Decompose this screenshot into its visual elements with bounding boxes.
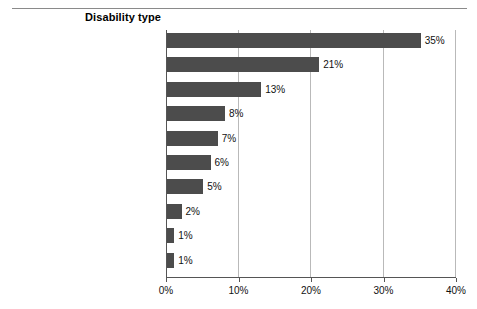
x-axis-tick bbox=[456, 278, 457, 282]
bar bbox=[167, 179, 203, 194]
bar bbox=[167, 33, 421, 48]
bar-value-label: 1% bbox=[178, 228, 192, 243]
bar-value-label: 35% bbox=[425, 33, 445, 48]
x-axis-tick-label: 40% bbox=[446, 285, 466, 296]
bar-value-label: 2% bbox=[186, 204, 200, 219]
bar-value-label: 13% bbox=[265, 82, 285, 97]
bar-value-label: 21% bbox=[323, 57, 343, 72]
x-axis-tick bbox=[384, 278, 385, 282]
bar bbox=[167, 155, 211, 170]
top-divider-rule bbox=[12, 8, 467, 9]
bar bbox=[167, 106, 225, 121]
x-axis-tick bbox=[166, 278, 167, 282]
x-axis-tick-label: 0% bbox=[159, 285, 173, 296]
bar-value-label: 7% bbox=[222, 131, 236, 146]
bar bbox=[167, 82, 261, 97]
bar bbox=[167, 204, 182, 219]
x-axis-tick bbox=[239, 278, 240, 282]
bar bbox=[167, 228, 174, 243]
x-axis-tick bbox=[311, 278, 312, 282]
bar-value-label: 1% bbox=[178, 253, 192, 268]
bar-value-label: 6% bbox=[215, 155, 229, 170]
bar bbox=[167, 131, 218, 146]
bar-value-label: 5% bbox=[207, 179, 221, 194]
x-axis-tick-label: 30% bbox=[373, 285, 393, 296]
chart-title: Disability type bbox=[85, 11, 161, 23]
gridline-40pct bbox=[455, 30, 456, 278]
bar bbox=[167, 57, 319, 72]
x-axis-tick-label: 10% bbox=[228, 285, 248, 296]
bar bbox=[167, 253, 174, 268]
gridline-30pct bbox=[383, 30, 384, 278]
chart-page: Disability type 0%10%20%30%40%Specific l… bbox=[0, 0, 477, 309]
x-axis-tick-label: 20% bbox=[301, 285, 321, 296]
bar-value-label: 8% bbox=[229, 106, 243, 121]
